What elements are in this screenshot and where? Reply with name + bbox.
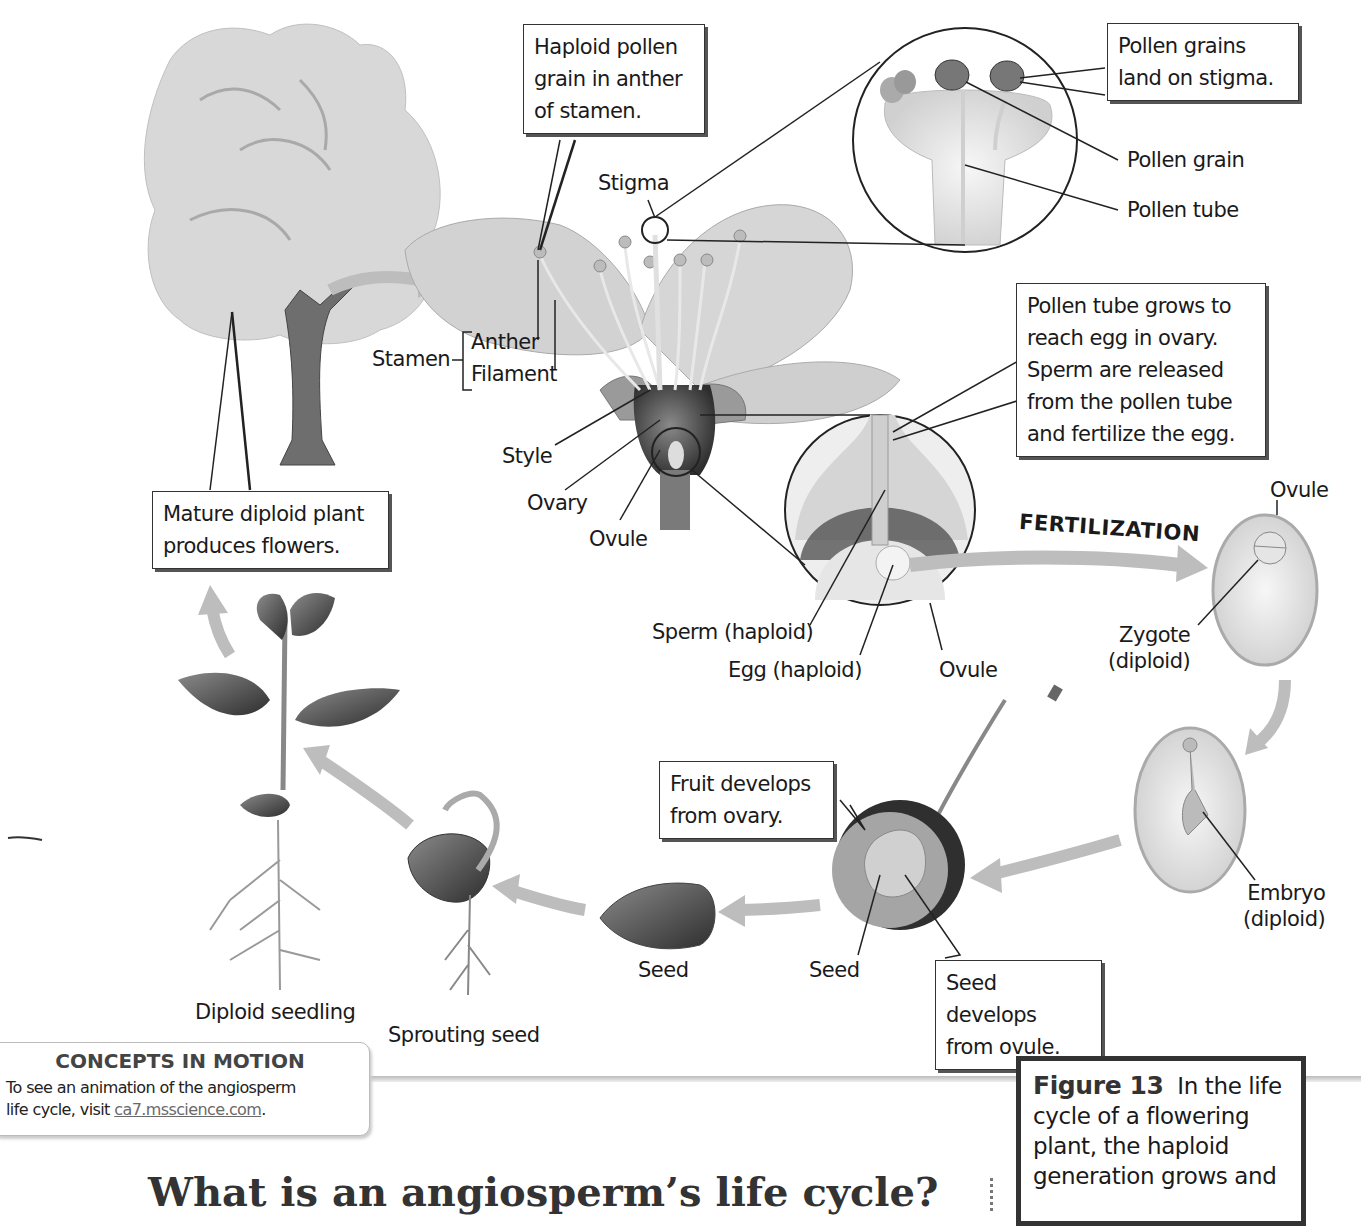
mature-tree	[144, 24, 440, 465]
concepts-in-motion-link[interactable]: ca7.msscience.com	[114, 1100, 261, 1119]
dotted-rule	[990, 1178, 996, 1211]
caption-line-1: In the life	[1177, 1073, 1281, 1099]
section-heading: What is an angiosperm’s life cycle?	[148, 1168, 938, 1215]
fruit	[832, 684, 1063, 958]
callout-haploid-pollen: Haploid pollen grain in anther of stamen…	[523, 24, 705, 134]
stigma-magnified	[655, 28, 1118, 252]
label-ovule-circle: Ovule	[939, 657, 998, 683]
callout-pollen-tube-grows: Pollen tube grows to reach egg in ovary.…	[1016, 283, 1266, 457]
label-pollen-tube: Pollen tube	[1127, 197, 1239, 223]
callout-seed-develops: Seed develops from ovule.	[935, 960, 1102, 1070]
label-embryo: Embryo (diploid)	[1243, 880, 1325, 932]
embryo-ovule	[1135, 728, 1255, 892]
caption-line-3: plant, the haploid	[1033, 1133, 1229, 1159]
caption-line-4: generation grows and	[1033, 1163, 1276, 1189]
label-stigma: Stigma	[598, 170, 669, 196]
label-sperm: Sperm (haploid)	[652, 619, 813, 645]
sprouting-seed	[408, 794, 497, 995]
figure-number: Figure 13	[1033, 1071, 1164, 1100]
label-seed-loose: Seed	[638, 957, 689, 983]
label-sprouting-seed: Sprouting seed	[388, 1022, 539, 1048]
concepts-in-motion-text: To see an animation of the angiosperm li…	[6, 1077, 296, 1121]
label-ovary: Ovary	[527, 490, 587, 516]
cim-line2-prefix: life cycle, visit	[6, 1100, 114, 1119]
callout-fruit-develops: Fruit develops from ovary.	[659, 761, 834, 839]
label-style: Style	[502, 443, 552, 469]
label-zygote: Zygote (diploid)	[1108, 622, 1190, 674]
label-ovule-right: Ovule	[1270, 477, 1329, 503]
concepts-in-motion-box: CONCEPTS IN MOTION To see an animation o…	[0, 1042, 370, 1136]
label-pollen-grain: Pollen grain	[1127, 147, 1244, 173]
caption-line-2: cycle of a flowering	[1033, 1103, 1249, 1129]
label-filament: Filament	[471, 361, 557, 387]
cim-line1: To see an animation of the angiosperm	[6, 1078, 296, 1097]
figure-caption-box: Figure 13 In the life cycle of a floweri…	[1016, 1056, 1306, 1226]
label-ovule-flower: Ovule	[589, 526, 648, 552]
callout-mature-plant: Mature diploid plant produces flowers.	[152, 491, 389, 569]
label-stamen: Stamen	[372, 346, 450, 372]
seed	[600, 883, 715, 949]
label-seed-fruit: Seed	[809, 957, 860, 983]
label-anther: Anther	[471, 329, 539, 355]
zygote-ovule	[1198, 500, 1317, 665]
callout-pollen-land: Pollen grains land on stigma.	[1107, 23, 1299, 101]
label-egg: Egg (haploid)	[728, 657, 862, 683]
cim-line2-suffix: .	[261, 1100, 266, 1119]
label-diploid-seedling: Diploid seedling	[195, 999, 355, 1025]
concepts-in-motion-title: CONCEPTS IN MOTION	[0, 1049, 369, 1073]
